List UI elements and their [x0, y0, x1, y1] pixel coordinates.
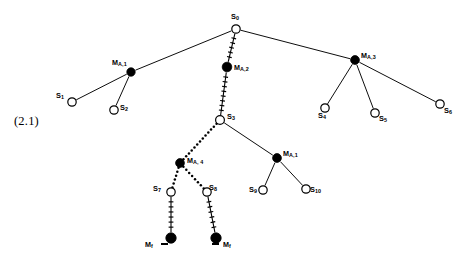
label-sub-S6: 6: [449, 109, 452, 115]
edge-S0-MA2: [227, 34, 236, 62]
label-MA1b: MA,1: [283, 150, 298, 159]
edge-S3-MA4: [182, 122, 218, 160]
edge-MA1a-S1: [76, 74, 126, 100]
label-sub-S9: 9: [254, 188, 257, 194]
edge-MA1b-S10: [280, 162, 302, 186]
edge-MA1b-S9: [265, 163, 275, 186]
dash-right: [212, 243, 219, 245]
figure-canvas: (2.1) S0MA,1S1S2MA,2MA,3S4S5S6S3MA, 4S7S…: [0, 0, 462, 259]
edge-MA3-S4: [328, 64, 353, 104]
label-S5: S5: [379, 115, 387, 124]
node-S2[interactable]: [110, 106, 118, 114]
node-Mf1[interactable]: [166, 233, 176, 243]
label-MA4: MA, 4: [187, 157, 203, 166]
edge-MA2-S3: [219, 72, 228, 115]
label-S7: S7: [153, 185, 161, 194]
edge-MA3-S5: [357, 65, 374, 109]
label-S1: S1: [56, 92, 64, 101]
node-Mf2[interactable]: [211, 233, 221, 243]
label-Mf2: Mf: [223, 241, 231, 250]
label-S9: S9: [249, 186, 257, 195]
node-S7[interactable]: [167, 188, 175, 196]
label-sub-MA4: A, 4: [193, 159, 203, 165]
label-Mf1: Mf: [145, 241, 153, 250]
edge-MA4-S7: [171, 167, 180, 189]
edge-MA3-S6: [359, 62, 435, 101]
label-sub-S3: 3: [232, 115, 235, 121]
equation-number: (2.1): [14, 114, 39, 129]
label-sub-Mf2: f: [229, 243, 231, 249]
edge-layer: [76, 30, 435, 232]
label-MA1a: MA,1: [112, 59, 127, 68]
label-sub-MA1b: A,1: [289, 152, 298, 158]
label-MA2: MA,2: [234, 64, 249, 73]
label-sub-S7: 7: [158, 187, 161, 193]
dash-left: [161, 243, 168, 245]
label-MA3: MA,3: [361, 52, 376, 61]
node-S1[interactable]: [68, 98, 76, 106]
label-sub-S10: 10: [315, 188, 321, 194]
edge-S0-MA3: [241, 30, 351, 59]
label-S10: S10: [310, 186, 321, 195]
node-MA3[interactable]: [351, 56, 360, 65]
label-sub-S2: 2: [125, 106, 128, 112]
node-S6[interactable]: [436, 100, 444, 108]
label-sub-S1: 1: [61, 94, 64, 100]
node-S5[interactable]: [371, 109, 379, 117]
label-S4: S4: [318, 112, 326, 121]
edge-S3-MA1b: [224, 123, 273, 155]
edge-S7-Mf1: [169, 197, 174, 232]
edge-S8-Mf2: [207, 197, 217, 233]
node-layer: [68, 25, 444, 243]
node-S9[interactable]: [259, 186, 267, 194]
label-sub-S5: 5: [384, 117, 387, 123]
label-S3: S3: [227, 113, 235, 122]
label-S6: S6: [444, 107, 452, 116]
node-MA1a[interactable]: [127, 68, 135, 76]
label-sub-Mf1: f: [151, 243, 153, 249]
edge-MA4-S8: [182, 165, 205, 189]
label-S8: S8: [209, 184, 217, 193]
tree-diagram-svg: [0, 0, 462, 259]
node-S0[interactable]: [232, 25, 240, 33]
node-MA1b[interactable]: [273, 154, 282, 163]
node-S10[interactable]: [302, 185, 310, 193]
label-sub-S4: 4: [323, 114, 326, 120]
label-S2: S2: [120, 104, 128, 113]
label-sub-MA1a: A,1: [118, 61, 127, 67]
label-S0: S0: [231, 13, 239, 22]
label-sub-S8: 8: [214, 186, 217, 192]
node-MA2[interactable]: [222, 62, 232, 72]
label-sub-S0: 0: [236, 15, 239, 21]
label-sub-MA2: A,2: [240, 66, 249, 72]
node-S3[interactable]: [216, 116, 225, 125]
edge-MA1a-S2: [116, 76, 129, 105]
node-MA4[interactable]: [176, 159, 185, 168]
edge-S0-MA1a: [135, 31, 231, 70]
label-sub-MA3: A,3: [367, 54, 376, 60]
